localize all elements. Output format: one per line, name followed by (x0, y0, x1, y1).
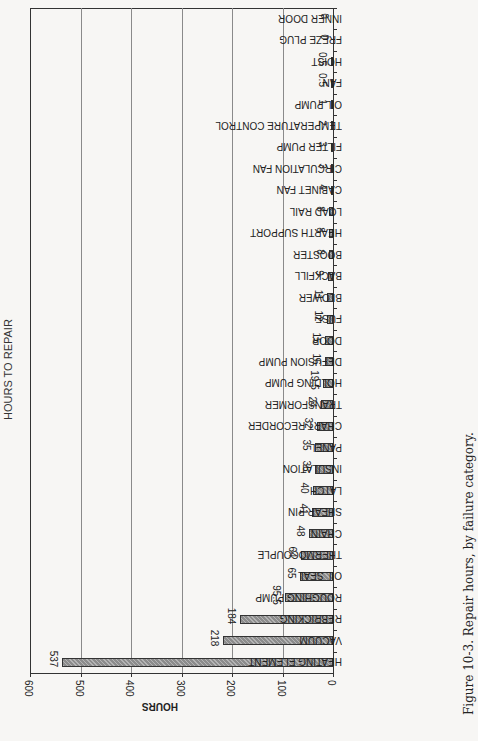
gridline (131, 8, 132, 673)
gridline (232, 8, 233, 673)
y-tick-label: 100 (276, 680, 287, 697)
category-label: TRANSFORMER (265, 399, 342, 410)
category-label: CIRCULATION FAN (253, 163, 342, 174)
category-label: OIL PUMP (295, 99, 342, 110)
category-label: SHEAR PIN (288, 506, 342, 517)
y-tick-label: 200 (225, 680, 236, 697)
bar-value-label: 48 (295, 525, 306, 536)
gridline (182, 8, 183, 673)
category-tick (333, 630, 337, 631)
category-label: TEMPERATURE CONTROL (216, 120, 343, 131)
category-label: CHART RECORDER (248, 420, 342, 431)
category-tick (333, 72, 337, 73)
category-label: LATCH (310, 485, 342, 496)
category-label: ROUGHING PUMP (255, 592, 342, 603)
category-label: BACKFILL (295, 270, 342, 281)
category-tick (333, 480, 337, 481)
category-tick (333, 330, 337, 331)
gridline (81, 8, 82, 673)
value-axis-line (30, 673, 334, 674)
category-tick (333, 437, 337, 438)
category-tick (333, 544, 337, 545)
category-label: CHAIN (311, 528, 342, 539)
category-tick (333, 587, 337, 588)
y-tick-label: 300 (175, 680, 186, 697)
y-tick-label: 400 (124, 680, 135, 697)
bar-value-label: 40 (299, 482, 310, 493)
category-tick (333, 8, 337, 9)
category-tick (333, 609, 337, 610)
category-label: VACUUM (299, 635, 342, 646)
category-tick (333, 373, 337, 374)
category-tick (333, 287, 337, 288)
category-label: THERMOCOUPLE (258, 549, 342, 560)
category-label: PANEL (310, 442, 342, 453)
category-label: FUSE (315, 313, 342, 324)
category-tick (333, 652, 337, 653)
category-label: FILTER PUMP (277, 141, 342, 152)
category-tick (333, 351, 337, 352)
category-label: HEATING ELEMENT (248, 656, 342, 667)
category-label: INSULATION (283, 463, 342, 474)
category-tick (333, 308, 337, 309)
category-tick (333, 223, 337, 224)
category-tick (333, 51, 337, 52)
category-label: LOAD RAIL (290, 206, 342, 217)
y-tick-label: 0 (326, 680, 337, 686)
category-tick (333, 523, 337, 524)
category-label: CABINET FAN (277, 184, 342, 195)
gridline (283, 8, 284, 673)
category-tick (333, 158, 337, 159)
category-tick (333, 566, 337, 567)
chart-title: HOURS TO REPAIR (2, 319, 14, 420)
category-label: INNER DOOR (278, 13, 342, 24)
category-label: DOOR (312, 335, 342, 346)
bar-value-label: 218 (209, 629, 220, 646)
y-tick-label: 600 (23, 680, 34, 697)
category-tick (333, 115, 337, 116)
category-label: FREZE PLUG (279, 34, 342, 45)
category-tick (333, 94, 337, 95)
category-label: OIL SEAL (298, 570, 342, 581)
category-tick (333, 180, 337, 181)
category-tick (333, 137, 337, 138)
category-label: BOOSTER (293, 249, 342, 260)
category-label: DEFUSION PUMP (259, 356, 342, 367)
category-label: HOLDING PUMP (265, 377, 342, 388)
bar-value-label: 65 (286, 568, 297, 579)
category-tick (333, 29, 337, 30)
category-tick (333, 265, 337, 266)
bar-value-label: 184 (226, 608, 237, 625)
category-label: FAN (323, 77, 342, 88)
category-tick (333, 501, 337, 502)
figure-page: 0100200300400500600HOURS537HEATING ELEME… (0, 0, 478, 741)
category-tick (333, 394, 337, 395)
category-label: BLOWER (299, 292, 342, 303)
category-tick (333, 201, 337, 202)
bar-value-label: 537 (48, 651, 59, 668)
category-tick (333, 244, 337, 245)
figure-caption: Figure 10-3. Repair hours, by failure ca… (462, 432, 476, 715)
category-label: HOIST (311, 56, 342, 67)
category-tick (333, 458, 337, 459)
category-label: HEARTH SUPPORT (250, 227, 342, 238)
y-axis-title: HOURS (142, 701, 178, 712)
category-tick (333, 416, 337, 417)
y-tick-label: 500 (74, 680, 85, 697)
category-label: REBRICKING (280, 613, 342, 624)
